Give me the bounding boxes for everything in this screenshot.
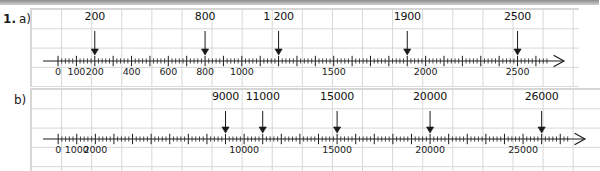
marker-value-label: 11000 xyxy=(246,90,280,103)
marker-arrowhead xyxy=(91,49,98,55)
axis-tick-label: 100 xyxy=(67,66,85,77)
axis-tick-label: 800 xyxy=(196,66,214,77)
top-gray-strip xyxy=(0,0,599,5)
part-label-b: b) xyxy=(14,93,26,107)
number-line-svg-b xyxy=(31,89,600,171)
axis-tick-label: 20000 xyxy=(415,144,445,155)
axis-tick-label: 10000 xyxy=(229,144,259,155)
marker-arrowhead xyxy=(426,127,433,133)
axis-tick-label: 200 xyxy=(86,66,104,77)
grid-panel-b: 0100020001000015000200002500090001100015… xyxy=(30,88,600,171)
marker-value-label: 2500 xyxy=(504,10,531,23)
marker-arrowhead xyxy=(538,127,545,133)
number-line-a: 010020040060080010001500200025002008001 … xyxy=(31,9,579,87)
number-line-svg-a xyxy=(31,9,579,87)
axis-tick-label: 2000 xyxy=(414,66,438,77)
axis-tick-label: 400 xyxy=(123,66,141,77)
marker-value-label: 26000 xyxy=(525,90,559,103)
exercise-number: 1. xyxy=(3,12,16,26)
marker-value-label: 20000 xyxy=(413,90,447,103)
marker-value-label: 15000 xyxy=(320,90,354,103)
marker-value-label: 800 xyxy=(195,10,215,23)
axis-tick-label: 600 xyxy=(159,66,177,77)
axis-tick-label: 2000 xyxy=(83,144,107,155)
marker-arrowhead xyxy=(514,49,521,55)
marker-value-label: 200 xyxy=(85,10,105,23)
marker-arrowhead xyxy=(201,49,208,55)
number-line-b: 0100020001000015000200002500090001100015… xyxy=(31,89,600,171)
marker-value-label: 9000 xyxy=(212,90,239,103)
axis-tick-label: 1000 xyxy=(230,66,254,77)
marker-value-label: 1900 xyxy=(394,10,421,23)
grid-panel-a: 010020040060080010001500200025002008001 … xyxy=(30,8,579,87)
axis-tick-label: 15000 xyxy=(322,144,352,155)
axis-tick-label: 1500 xyxy=(322,66,346,77)
marker-arrowhead xyxy=(275,49,282,55)
axis-tick-label: 0 xyxy=(55,66,61,77)
marker-value-label: 1 200 xyxy=(263,10,294,23)
axis-tick-label: 0 xyxy=(55,144,61,155)
axis-tick-label: 2500 xyxy=(506,66,530,77)
marker-arrowhead xyxy=(404,49,411,55)
marker-arrowhead xyxy=(333,127,340,133)
marker-arrowhead xyxy=(259,127,266,133)
marker-arrowhead xyxy=(222,127,229,133)
axis-tick-label: 25000 xyxy=(508,144,538,155)
